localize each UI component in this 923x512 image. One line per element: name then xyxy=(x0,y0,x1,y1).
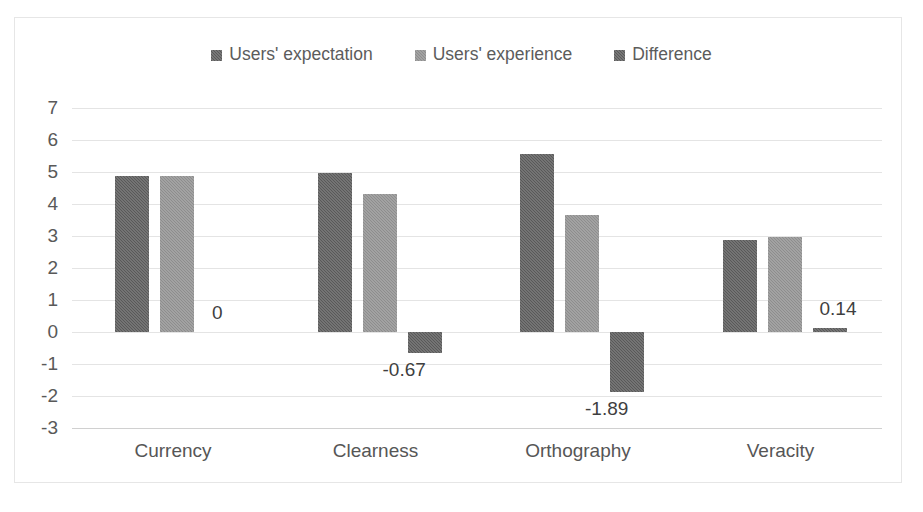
chart-container: Users' expectation Users' experience Dif… xyxy=(0,0,923,512)
chart-legend: Users' expectation Users' experience Dif… xyxy=(0,40,923,70)
y-axis-tick-label: 3 xyxy=(47,225,58,247)
y-axis-tick-label: 0 xyxy=(47,321,58,343)
x-axis-line xyxy=(72,428,882,429)
y-axis-tick-label: 5 xyxy=(47,161,58,183)
y-axis-tick-label: -2 xyxy=(41,385,58,407)
bar xyxy=(363,194,397,332)
legend-label: Difference xyxy=(632,46,711,64)
bar xyxy=(115,176,149,332)
y-axis-tick-label: 4 xyxy=(47,193,58,215)
bar-group: -0.67 xyxy=(275,108,478,428)
x-axis-category-label: Orthography xyxy=(477,440,679,462)
plot-area: 76543210-1-2-30-0.67-1.890.14 xyxy=(72,108,882,428)
y-axis-tick-label: 6 xyxy=(47,129,58,151)
bar xyxy=(520,154,554,332)
bar xyxy=(768,237,802,332)
bar-data-label: 0 xyxy=(212,302,223,324)
bar-data-label: -0.67 xyxy=(383,359,426,381)
legend-swatch-icon xyxy=(614,50,625,61)
bar xyxy=(408,332,442,353)
legend-label: Users' expectation xyxy=(229,46,372,64)
legend-item-users-expectation: Users' expectation xyxy=(211,46,372,64)
legend-item-users-experience: Users' experience xyxy=(415,46,573,64)
bar-data-label: -1.89 xyxy=(585,398,628,420)
bar-group: 0.14 xyxy=(680,108,883,428)
x-axis-category-label: Veracity xyxy=(680,440,882,462)
y-axis-tick-label: 7 xyxy=(47,97,58,119)
bar xyxy=(610,332,644,392)
bar-group: -1.89 xyxy=(477,108,680,428)
legend-swatch-icon xyxy=(211,50,222,61)
x-axis-category-label: Clearness xyxy=(275,440,477,462)
y-axis-tick-label: -1 xyxy=(41,353,58,375)
bar-group: 0 xyxy=(72,108,275,428)
x-axis-category-label: Currency xyxy=(72,440,274,462)
bar xyxy=(160,176,194,332)
legend-label: Users' experience xyxy=(433,46,573,64)
y-axis-tick-label: 2 xyxy=(47,257,58,279)
y-axis-tick-label: -3 xyxy=(41,417,58,439)
bar xyxy=(318,173,352,332)
y-axis-tick-label: 1 xyxy=(47,289,58,311)
bar-data-label: 0.14 xyxy=(820,298,857,320)
bar xyxy=(723,240,757,332)
x-axis-labels: CurrencyClearnessOrthographyVeracity xyxy=(72,440,882,474)
bar xyxy=(813,328,847,332)
legend-item-difference: Difference xyxy=(614,46,711,64)
bar xyxy=(565,215,599,332)
legend-swatch-icon xyxy=(415,50,426,61)
